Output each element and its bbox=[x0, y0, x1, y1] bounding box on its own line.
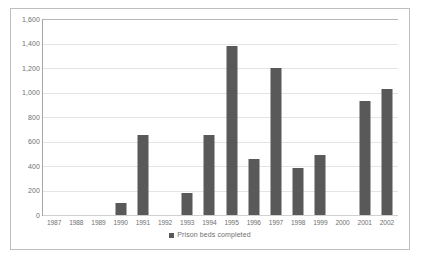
bar-1994[interactable] bbox=[204, 135, 215, 215]
x-tick-label-1997: 1997 bbox=[265, 218, 287, 228]
y-tick-label: 1,400 bbox=[12, 40, 40, 47]
bar-slot-1991 bbox=[132, 19, 154, 215]
x-tick-label-2002: 2002 bbox=[376, 218, 398, 228]
y-tick-label: 800 bbox=[12, 114, 40, 121]
bar-1997[interactable] bbox=[270, 68, 281, 215]
bar-1998[interactable] bbox=[293, 168, 304, 215]
x-tick-label-1996: 1996 bbox=[243, 218, 265, 228]
x-tick-label-1992: 1992 bbox=[154, 218, 176, 228]
y-axis-tick-labels: 1,6001,4001,2001,0008006004002000 bbox=[11, 19, 40, 215]
bar-1993[interactable] bbox=[182, 193, 193, 215]
y-tick-label: 200 bbox=[12, 187, 40, 194]
bar-slot-1996 bbox=[243, 19, 265, 215]
bar-slot-1993 bbox=[176, 19, 198, 215]
y-tick-label: 400 bbox=[12, 163, 40, 170]
bar-1991[interactable] bbox=[137, 135, 148, 215]
bar-slot-1994 bbox=[198, 19, 220, 215]
bar-slot-1989 bbox=[87, 19, 109, 215]
bar-1990[interactable] bbox=[115, 203, 126, 215]
bar-2001[interactable] bbox=[359, 101, 370, 215]
x-axis-tick-labels: 1987198819891990199119921993199419951996… bbox=[43, 218, 398, 230]
y-tick-label: 0 bbox=[12, 212, 40, 219]
x-tick-label-1988: 1988 bbox=[65, 218, 87, 228]
bar-slot-1999 bbox=[309, 19, 331, 215]
legend-swatch-icon bbox=[169, 233, 174, 238]
x-tick-label-1991: 1991 bbox=[132, 218, 154, 228]
bar-1996[interactable] bbox=[248, 159, 259, 215]
y-tick-label: 600 bbox=[12, 138, 40, 145]
bar-slot-2002 bbox=[376, 19, 398, 215]
x-tick-label-1987: 1987 bbox=[43, 218, 65, 228]
gridline-0 bbox=[43, 215, 398, 216]
bar-slot-1987 bbox=[43, 19, 65, 215]
x-tick-label-1998: 1998 bbox=[287, 218, 309, 228]
x-tick-label-1989: 1989 bbox=[87, 218, 109, 228]
bar-1995[interactable] bbox=[226, 46, 237, 215]
bar-slot-1997 bbox=[265, 19, 287, 215]
bar-2002[interactable] bbox=[381, 89, 392, 215]
x-tick-label-2000: 2000 bbox=[331, 218, 353, 228]
bar-slot-1998 bbox=[287, 19, 309, 215]
bar-slot-1995 bbox=[221, 19, 243, 215]
bar-1999[interactable] bbox=[315, 155, 326, 215]
y-tick-label: 1,600 bbox=[12, 16, 40, 23]
bar-slot-1988 bbox=[65, 19, 87, 215]
x-tick-label-1999: 1999 bbox=[309, 218, 331, 228]
x-tick-label-1993: 1993 bbox=[176, 218, 198, 228]
x-tick-label-1995: 1995 bbox=[221, 218, 243, 228]
bar-slot-2001 bbox=[354, 19, 376, 215]
x-tick-label-2001: 2001 bbox=[354, 218, 376, 228]
chart-legend: Prison beds completed bbox=[11, 231, 409, 239]
bar-chart-figure: 1,6001,4001,2001,0008006004002000 198719… bbox=[10, 8, 410, 250]
x-tick-label-1994: 1994 bbox=[198, 218, 220, 228]
bar-slot-1990 bbox=[110, 19, 132, 215]
bar-slot-1992 bbox=[154, 19, 176, 215]
bar-slot-2000 bbox=[331, 19, 353, 215]
legend-label: Prison beds completed bbox=[177, 231, 250, 239]
x-tick-label-1990: 1990 bbox=[110, 218, 132, 228]
bars-layer bbox=[43, 19, 398, 215]
y-tick-label: 1,200 bbox=[12, 65, 40, 72]
y-tick-label: 1,000 bbox=[12, 89, 40, 96]
